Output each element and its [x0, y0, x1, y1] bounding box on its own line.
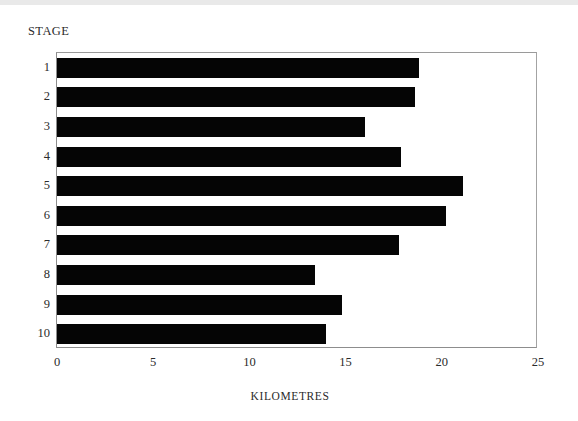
- y-axis-tick-label: 2: [22, 89, 50, 103]
- y-axis-tick-label: 7: [22, 237, 50, 251]
- y-axis-tick-label: 10: [22, 326, 50, 340]
- y-axis-title: STAGE: [28, 24, 69, 39]
- x-axis-tick-label: 20: [436, 355, 449, 370]
- bar: [57, 58, 419, 78]
- bar: [57, 295, 342, 315]
- bars-layer: [57, 53, 536, 347]
- bar: [57, 265, 315, 285]
- y-axis-tick-label: 9: [22, 297, 50, 311]
- x-axis-tick-label: 15: [339, 355, 352, 370]
- plot-area: [56, 52, 537, 348]
- y-axis-tick-label: 4: [22, 149, 50, 163]
- x-axis-tick-label: 0: [54, 355, 60, 370]
- bar: [57, 324, 326, 344]
- bar-chart: STAGE 12345678910 0510152025 KILOMETRES: [0, 0, 578, 421]
- bar: [57, 87, 415, 107]
- y-axis-tick-labels: 12345678910: [18, 52, 50, 348]
- y-axis-tick-label: 5: [22, 178, 50, 192]
- y-axis-tick-label: 6: [22, 208, 50, 222]
- bar: [57, 176, 463, 196]
- x-axis-title: KILOMETRES: [251, 390, 330, 402]
- x-axis-title-wrapper: KILOMETRES: [0, 390, 578, 402]
- x-axis-tick-label: 25: [532, 355, 545, 370]
- bar: [57, 147, 401, 167]
- bar: [57, 235, 399, 255]
- x-axis-tick-labels: 0510152025: [56, 355, 537, 375]
- x-axis-tick-label: 10: [243, 355, 256, 370]
- bar: [57, 117, 365, 137]
- bar: [57, 206, 446, 226]
- y-axis-tick-label: 1: [22, 60, 50, 74]
- y-axis-tick-label: 8: [22, 267, 50, 281]
- x-axis-tick-label: 5: [150, 355, 156, 370]
- y-axis-tick-label: 3: [22, 119, 50, 133]
